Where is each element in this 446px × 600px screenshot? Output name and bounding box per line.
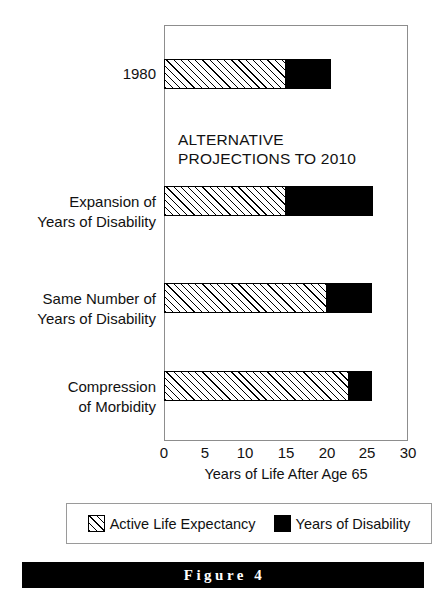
bar-row [164,59,331,89]
bar-segment-years-of-disability [285,186,373,216]
legend-label: Years of Disability [296,516,411,532]
legend-label: Active Life Expectancy [110,516,256,532]
bar-row [164,186,373,216]
legend-swatch-hatch-icon [88,515,105,532]
legend-swatch-solid-icon [274,515,291,532]
figure-banner-label: Figure 4 [181,567,265,584]
bar-segment-years-of-disability [285,59,331,89]
x-tick-label: 25 [352,444,382,461]
bar-row [164,371,372,401]
bar-segment-active-life-expectancy [164,371,349,401]
bar-row [164,283,372,313]
x-axis-title: Years of Life After Age 65 [164,466,408,482]
x-tick-label: 20 [312,444,342,461]
x-tick-label: 10 [230,444,260,461]
x-tick-label: 5 [190,444,220,461]
category-label-expansion: Expansion of Years of Disability [37,192,156,231]
chart-title: ALTERNATIVE PROJECTIONS TO 2010 [178,130,356,168]
category-label-compression: Compression of Morbidity [68,377,156,416]
legend-item-active-life-expectancy: Active Life Expectancy [88,515,256,532]
bar-segment-active-life-expectancy [164,59,286,89]
figure-container: ALTERNATIVE PROJECTIONS TO 2010 1980 Exp… [0,0,446,600]
bar-segment-active-life-expectancy [164,283,327,313]
category-label-same-number: Same Number of Years of Disability [37,289,156,328]
bar-segment-years-of-disability [348,371,372,401]
bar-segment-active-life-expectancy [164,186,286,216]
bar-segment-years-of-disability [326,283,372,313]
legend-item-years-of-disability: Years of Disability [274,515,411,532]
x-tick-label: 15 [271,444,301,461]
chart-legend: Active Life Expectancy Years of Disabili… [66,503,432,544]
category-label-1980: 1980 [123,64,156,84]
x-tick-label: 0 [149,444,179,461]
figure-banner: Figure 4 [22,562,424,588]
x-tick-label: 30 [393,444,423,461]
